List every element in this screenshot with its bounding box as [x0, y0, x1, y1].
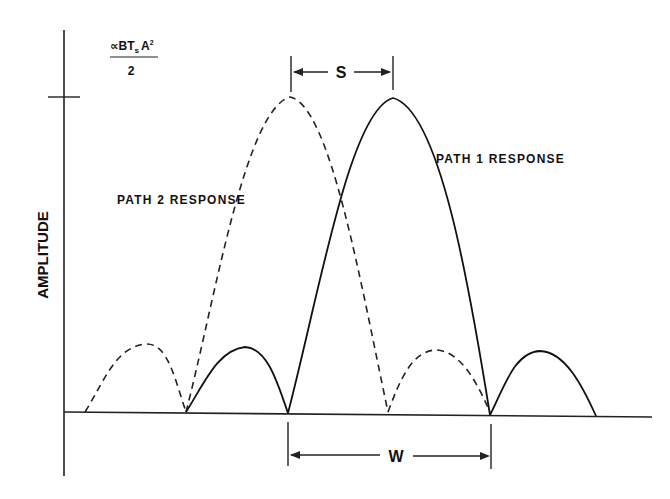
path-1-label: PATH 1 RESPONSE	[436, 152, 565, 166]
y-axis-label: AMPLITUDE	[34, 211, 51, 299]
peak-superscript: 2	[150, 39, 154, 46]
x-axis	[64, 412, 652, 417]
path-1-response-curve	[186, 98, 596, 416]
peak-value-label: ∝BTsA2 2	[110, 39, 158, 78]
peak-after-sub: A	[141, 39, 150, 53]
width-dimension: W	[288, 422, 491, 469]
peak-denominator: 2	[128, 64, 135, 78]
peak-numerator: ∝BT	[110, 39, 135, 53]
width-label: W	[388, 448, 404, 465]
amplitude-diagram: AMPLITUDE ∝BTsA2 2 PATH 1 RESPONSE PATH …	[0, 0, 670, 499]
peak-subscript: s	[135, 46, 140, 55]
svg-text:∝BTsA2: ∝BTsA2	[110, 39, 154, 55]
separation-dimension: S	[291, 56, 393, 92]
separation-label: S	[336, 64, 347, 81]
path-2-label: PATH 2 RESPONSE	[117, 193, 246, 207]
